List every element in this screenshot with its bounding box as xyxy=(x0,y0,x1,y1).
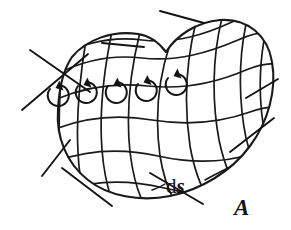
label-ds-d-part: d xyxy=(166,174,177,198)
label-ds-s-part: s xyxy=(177,174,185,198)
figure-container: ds A xyxy=(0,0,291,230)
label-vector-field-A: A xyxy=(234,196,249,219)
label-differential-surface-element: ds xyxy=(166,176,185,197)
arrow-top-right xyxy=(160,11,204,23)
